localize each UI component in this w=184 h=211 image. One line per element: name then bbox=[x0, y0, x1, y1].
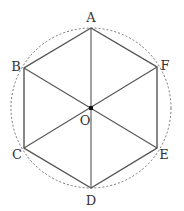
center-point bbox=[89, 106, 93, 110]
vertex-label-f: F bbox=[160, 58, 169, 73]
vertex-label-e: E bbox=[159, 147, 169, 162]
vertex-label-b: B bbox=[11, 59, 21, 74]
hexagon-diagram: A B C D E F O bbox=[0, 0, 184, 211]
vertex-label-d: D bbox=[86, 193, 96, 208]
center-label-o: O bbox=[80, 113, 91, 128]
vertex-label-a: A bbox=[85, 10, 96, 25]
vertex-label-c: C bbox=[12, 147, 22, 162]
